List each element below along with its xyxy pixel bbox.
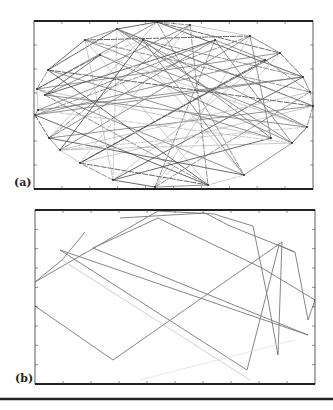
network-edge xyxy=(292,127,307,143)
network-edge xyxy=(155,185,208,187)
panel-b-path xyxy=(35,211,315,380)
network-node xyxy=(142,39,144,41)
panel-a-network xyxy=(34,21,314,188)
network-node xyxy=(279,52,281,54)
tour-path xyxy=(35,211,282,360)
network-node xyxy=(214,39,216,41)
panel-label-a: (a) xyxy=(14,176,32,189)
network-edge xyxy=(49,138,244,175)
network-node xyxy=(207,184,209,186)
panel-frame-b xyxy=(35,210,315,384)
network-node xyxy=(306,126,308,128)
network-node xyxy=(44,94,46,96)
network-edge xyxy=(155,53,280,187)
faint-path-segment xyxy=(140,340,295,380)
network-edge xyxy=(113,180,155,187)
network-edge xyxy=(45,95,208,185)
network-node xyxy=(59,149,61,151)
network-edge xyxy=(85,40,113,180)
network-edge xyxy=(307,106,313,127)
network-node xyxy=(99,54,101,56)
network-node xyxy=(302,76,304,78)
network-edge xyxy=(250,36,280,53)
network-edge xyxy=(35,115,49,138)
network-node xyxy=(264,59,266,61)
panel-label-b: (b) xyxy=(15,372,33,385)
network-edge xyxy=(208,175,244,185)
network-node xyxy=(189,24,191,26)
network-node xyxy=(79,162,81,164)
network-node xyxy=(84,39,86,41)
network-node xyxy=(243,174,245,176)
network-node xyxy=(116,28,118,30)
network-node xyxy=(249,35,251,37)
network-edge xyxy=(190,25,250,36)
network-node xyxy=(36,88,38,90)
network-node xyxy=(291,142,293,144)
network-edge xyxy=(37,89,38,110)
figure-canvas xyxy=(0,0,333,410)
network-node xyxy=(270,137,272,139)
network-node xyxy=(47,69,49,71)
network-edge xyxy=(310,92,313,106)
network-node xyxy=(37,109,39,111)
network-edge xyxy=(45,40,215,95)
network-edge xyxy=(60,150,80,163)
network-node xyxy=(112,179,114,181)
network-edge xyxy=(37,22,157,89)
network-edge xyxy=(244,143,292,175)
faint-path-segment xyxy=(62,260,250,380)
network-node xyxy=(154,186,156,188)
network-node xyxy=(48,137,50,139)
